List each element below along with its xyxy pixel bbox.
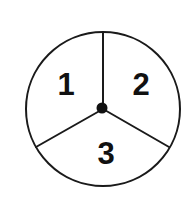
spinner-figure: 1 2 3 — [0, 0, 187, 197]
sector-label-2: 2 — [132, 67, 149, 102]
spinner-pivot-dot-icon — [97, 103, 108, 114]
sector-label-3: 3 — [97, 136, 114, 171]
spinner-diagram: 1 2 3 — [0, 0, 187, 197]
sector-label-1: 1 — [57, 67, 74, 102]
